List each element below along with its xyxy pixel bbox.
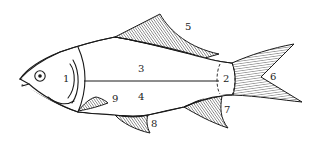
caudal-fin [232, 44, 302, 102]
label-1: 1 [63, 73, 69, 84]
label-8: 8 [151, 118, 157, 129]
label-9: 9 [112, 93, 118, 104]
fish-diagram: 1 2 3 4 5 6 7 8 9 [0, 0, 316, 145]
label-4: 4 [138, 91, 144, 102]
label-6: 6 [270, 71, 276, 82]
label-7: 7 [224, 104, 230, 115]
label-2: 2 [223, 73, 229, 84]
pelvic-fin [115, 115, 150, 133]
label-3: 3 [138, 63, 144, 74]
label-5: 5 [185, 21, 191, 32]
pupil [38, 74, 42, 78]
